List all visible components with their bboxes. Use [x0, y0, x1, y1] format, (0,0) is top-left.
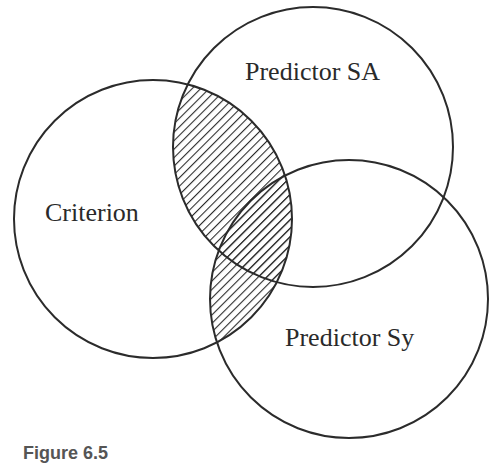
- figure-caption: Figure 6.5: [23, 444, 108, 462]
- predictor-sa-label: Predictor SA: [245, 57, 380, 86]
- predictor-sy-label: Predictor Sy: [285, 323, 414, 352]
- criterion-label: Criterion: [45, 198, 139, 227]
